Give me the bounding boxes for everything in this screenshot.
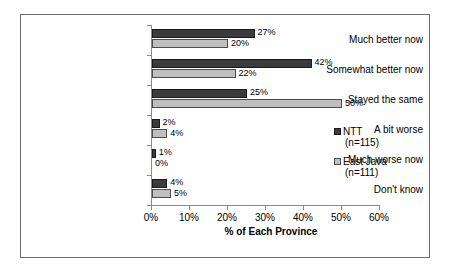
bar-east-java[interactable] [152, 129, 167, 138]
x-axis-tick [265, 206, 266, 210]
bar-east-java[interactable] [152, 69, 236, 78]
bar-ntt[interactable] [152, 89, 247, 98]
bar-value-east-java: 0% [155, 159, 168, 168]
y-axis-tick [147, 55, 151, 56]
legend-item-ntt[interactable]: NTT (n=115) [334, 126, 424, 148]
y-axis-tick [147, 25, 151, 26]
bar-value-ntt: 2% [163, 118, 176, 127]
x-axis-tick [151, 206, 152, 210]
x-axis-tick [227, 206, 228, 210]
chart-legend: NTT (n=115) East Java (n=111) [334, 126, 424, 186]
legend-sublabel-east-java: (n=111) [345, 167, 424, 178]
legend-sublabel-ntt: (n=115) [345, 137, 424, 148]
category-label: Much better now [299, 34, 423, 45]
bar-ntt[interactable] [152, 29, 255, 38]
bar-ntt[interactable] [152, 119, 160, 128]
x-axis-title: % of Each Province [151, 226, 391, 237]
bar-east-java[interactable] [152, 39, 228, 48]
x-axis-tick-label: 0% [136, 212, 166, 223]
y-axis-tick [147, 145, 151, 146]
x-axis-tick-label: 20% [212, 212, 242, 223]
x-axis-tick-label: 30% [250, 212, 280, 223]
x-axis-tick [303, 206, 304, 210]
bar-value-east-java: 20% [231, 39, 249, 48]
bar-ntt[interactable] [152, 179, 167, 188]
bar-east-java[interactable] [152, 189, 171, 198]
legend-swatch-east-java-icon [334, 158, 341, 165]
y-axis-tick [147, 175, 151, 176]
x-axis-tick-label: 50% [326, 212, 356, 223]
bar-value-ntt: 1% [159, 148, 172, 157]
bar-value-ntt: 25% [250, 88, 268, 97]
x-axis-tick [341, 206, 342, 210]
bar-ntt[interactable] [152, 59, 312, 68]
x-axis-tick-label: 10% [174, 212, 204, 223]
chart-frame: 27%20%42%22%25%50%2%4%1%0%4%5% 0%10%20%3… [20, 14, 430, 258]
bar-ntt[interactable] [152, 149, 156, 158]
x-axis-tick-label: 40% [288, 212, 318, 223]
bar-value-ntt: 4% [170, 178, 183, 187]
legend-item-east-java[interactable]: East Java (n=111) [334, 156, 424, 178]
x-axis-tick [189, 206, 190, 210]
y-axis-tick [147, 85, 151, 86]
bar-value-east-java: 22% [239, 69, 257, 78]
legend-label-ntt: NTT [343, 126, 362, 137]
legend-swatch-ntt-icon [334, 128, 341, 135]
bar-value-east-java: 4% [170, 129, 183, 138]
y-axis-tick [147, 115, 151, 116]
bar-value-east-java: 5% [174, 189, 187, 198]
legend-label-east-java: East Java [343, 156, 387, 167]
bar-value-ntt: 27% [258, 28, 276, 37]
category-label: Stayed the same [299, 94, 423, 105]
x-axis-tick-label: 60% [364, 212, 394, 223]
category-label: Somewhat better now [299, 64, 423, 75]
x-axis-tick [379, 206, 380, 210]
